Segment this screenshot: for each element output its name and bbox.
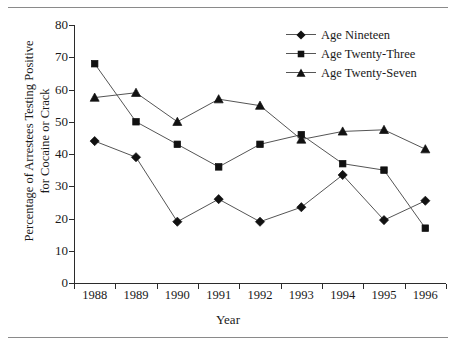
- x-tick-label: 1995: [362, 288, 406, 302]
- data-point-square: [381, 167, 388, 174]
- legend-item: Age Nineteen: [286, 25, 446, 44]
- data-point-diamond: [131, 153, 140, 162]
- x-tick-label: 1991: [197, 288, 241, 302]
- chart-figure: 01020304050607080 Percentage of Arrestee…: [0, 0, 456, 350]
- x-axis-title: Year: [0, 312, 456, 328]
- data-point-diamond: [90, 137, 99, 146]
- data-point-diamond: [297, 203, 306, 212]
- legend-marker-diamond-marker: [286, 28, 316, 42]
- data-point-triangle: [379, 125, 388, 133]
- y-tick-mark: [69, 219, 74, 220]
- data-point-square: [257, 141, 264, 148]
- data-point-diamond: [421, 196, 430, 205]
- y-tick-mark: [69, 154, 74, 155]
- y-tick-mark: [69, 251, 74, 252]
- legend-item-label: Age Twenty-Three: [321, 47, 415, 61]
- series-square: [91, 60, 428, 231]
- y-tick-mark: [69, 186, 74, 187]
- x-tick-mark: [115, 284, 116, 289]
- x-tick-mark: [74, 284, 75, 289]
- legend-item-label: Age Nineteen: [321, 28, 390, 42]
- series-diamond: [90, 137, 430, 227]
- legend-marker-triangle-marker: [286, 66, 316, 80]
- x-tick-mark: [157, 284, 158, 289]
- legend-item: Age Twenty-Three: [286, 44, 446, 63]
- x-tick-label: 1988: [73, 288, 117, 302]
- x-tick-mark: [405, 284, 406, 289]
- square-marker: [286, 47, 316, 61]
- x-tick-mark: [322, 284, 323, 289]
- series-line: [95, 141, 426, 222]
- y-axis-title: Percentage of Arrestees Testing Positive…: [21, 11, 53, 271]
- diamond-marker: [286, 28, 316, 42]
- legend-item-label: Age Twenty-Seven: [321, 66, 417, 80]
- x-tick-label: 1993: [279, 288, 323, 302]
- y-tick-mark: [69, 90, 74, 91]
- data-point-square: [91, 60, 98, 67]
- y-tick-mark: [69, 25, 74, 26]
- data-point-diamond: [214, 195, 223, 204]
- data-point-triangle: [173, 117, 182, 125]
- x-tick-label: 1989: [114, 288, 158, 302]
- data-point-square: [422, 225, 429, 232]
- legend-item: Age Twenty-Seven: [286, 63, 446, 82]
- y-tick-mark: [69, 122, 74, 123]
- data-point-square: [215, 164, 222, 171]
- x-tick-mark: [363, 284, 364, 289]
- data-point-triangle: [131, 88, 140, 96]
- y-axis-title-line1: Percentage of Arrestees Testing Positive: [22, 41, 36, 242]
- x-tick-mark: [239, 284, 240, 289]
- data-point-triangle: [214, 95, 223, 103]
- data-point-diamond: [173, 217, 182, 226]
- x-tick-label: 1994: [321, 288, 365, 302]
- x-tick-label: 1992: [238, 288, 282, 302]
- x-tick-mark: [446, 284, 447, 289]
- data-point-square: [339, 160, 346, 167]
- chart-legend: Age NineteenAge Twenty-ThreeAge Twenty-S…: [286, 25, 446, 82]
- x-tick-label: 1996: [403, 288, 447, 302]
- data-point-square: [133, 118, 140, 125]
- triangle-marker: [286, 66, 316, 80]
- data-point-square: [174, 141, 181, 148]
- legend-marker-square-marker: [286, 47, 316, 61]
- y-axis-title-line2: for Cocaine or Crack: [38, 88, 52, 193]
- legend-marker-glyph: [296, 30, 305, 39]
- x-tick-mark: [198, 284, 199, 289]
- legend-marker-glyph: [298, 50, 305, 57]
- legend-marker-glyph: [296, 68, 305, 76]
- x-tick-mark: [281, 284, 282, 289]
- data-point-triangle: [421, 145, 430, 153]
- x-tick-label: 1990: [155, 288, 199, 302]
- data-point-diamond: [255, 217, 264, 226]
- y-tick-mark: [69, 57, 74, 58]
